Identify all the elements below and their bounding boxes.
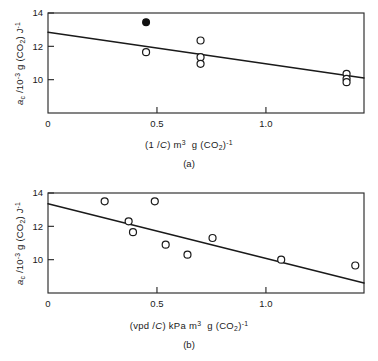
data-point-b-open-5 [184, 251, 191, 258]
data-point-b-open-7 [278, 256, 285, 263]
data-point-a-open-1 [197, 37, 204, 44]
x-tick-label-a-0.5: 0.5 [150, 118, 163, 129]
data-point-a-open-3 [197, 60, 204, 67]
data-point-b-open-8 [352, 262, 359, 269]
y-tick-label-a-12: 12 [32, 41, 43, 52]
y-axis-title-a: ac /10-3 g (CO2) J-1 [14, 21, 27, 104]
data-point-b-open-6 [209, 235, 216, 242]
y-tick-label-b-14: 14 [32, 187, 43, 198]
x-tick-label-b-0: 0 [45, 298, 50, 309]
data-point-a-open-6 [343, 79, 350, 86]
x-tick-label-b-1: 1.0 [259, 298, 272, 309]
scatter-panel-a: 10121400.51.0 ac /10-3 g (CO2) J-1 (1 /C… [0, 0, 378, 180]
y-axis-title-b: ac /10-3 g (CO2) J-1 [14, 201, 27, 284]
plot-area-b: 10121400.51.0 [0, 180, 378, 361]
y-tick-label-b-12: 12 [32, 221, 43, 232]
scatter-panel-b: 10121400.51.0 ac /10-3 g (CO2) J-1 (vpd … [0, 180, 378, 361]
data-point-a-filled-0 [143, 19, 150, 26]
axis-frame-a [48, 13, 364, 113]
data-point-b-open-0 [101, 198, 108, 205]
panel-caption-a: (a) [0, 158, 378, 169]
data-point-a-open-2 [197, 54, 204, 61]
y-tick-label-a-10: 10 [32, 74, 43, 85]
x-axis-title-b: (vpd /C) kPa m3 g (CO2)-1 [0, 320, 378, 333]
y-tick-label-a-14: 14 [32, 7, 43, 18]
x-tick-label-a-1: 1.0 [259, 118, 272, 129]
fit-line-a [48, 32, 364, 78]
data-point-a-open-0 [143, 49, 150, 56]
x-tick-label-b-0.5: 0.5 [150, 298, 163, 309]
panel-caption-b: (b) [0, 339, 378, 350]
y-tick-label-b-10: 10 [32, 254, 43, 265]
data-point-b-open-4 [162, 241, 169, 248]
data-point-b-open-3 [151, 198, 158, 205]
fit-line-b [48, 204, 364, 283]
x-tick-label-a-0: 0 [45, 118, 50, 129]
data-point-b-open-2 [129, 229, 136, 236]
plot-area-a: 10121400.51.0 [0, 0, 378, 180]
data-point-b-open-1 [125, 218, 132, 225]
x-axis-title-a: (1 /C) m3 g (CO2)-1 [0, 139, 378, 152]
